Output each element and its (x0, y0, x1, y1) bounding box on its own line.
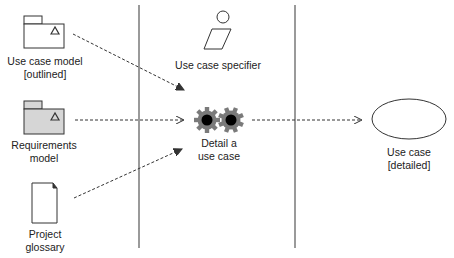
input-label-use-case-model: Use case model [outlined] (7, 55, 82, 80)
label-line: glossary (25, 241, 64, 254)
label-line: Detail a (198, 137, 240, 150)
package-icon-filled (24, 101, 64, 134)
label-line: Use case (387, 146, 431, 159)
package-icon (24, 16, 64, 48)
gears-icon (194, 107, 244, 133)
input-label-requirements-model: Requirements model (11, 139, 76, 164)
label-line: model (11, 152, 76, 165)
arrow-use-case-model-to-activity (73, 34, 184, 90)
input-label-project-glossary: Project glossary (25, 228, 64, 253)
label-line: use case (198, 150, 240, 163)
label-line: Project (25, 228, 64, 241)
use-case-ellipse-icon (372, 99, 446, 139)
label-line: [outlined] (7, 68, 82, 81)
label-line: Use case model (7, 55, 82, 68)
document-icon (32, 183, 57, 223)
output-label-use-case: Use case [detailed] (387, 146, 431, 171)
label-line: Requirements (11, 139, 76, 152)
workflow-diagram (0, 0, 454, 258)
worker-icon (204, 11, 231, 49)
arrow-glossary-to-activity (74, 149, 182, 198)
activity-label: Detail a use case (198, 137, 240, 162)
role-label: Use case specifier (175, 59, 261, 72)
label-line: [detailed] (387, 159, 431, 172)
